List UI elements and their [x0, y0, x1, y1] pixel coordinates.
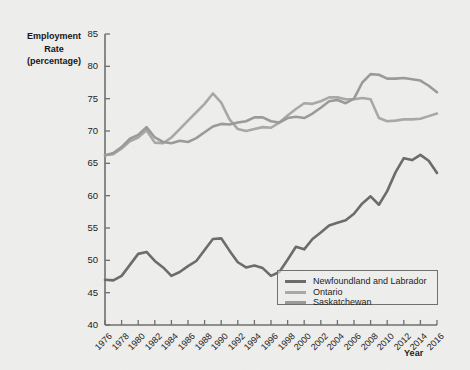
chart-legend: Newfoundland and Labrador Ontario Saskat… [277, 270, 438, 305]
legend-item-saskatchewan: Saskatchewan [285, 297, 372, 307]
y-tick-70: 70 [82, 125, 98, 136]
legend-item-ontario: Ontario [285, 287, 343, 297]
y-tick-65: 65 [82, 157, 98, 168]
legend-label-ontario: Ontario [313, 287, 343, 297]
series-line-newfoundland-and-labrador [105, 155, 437, 280]
y-tick-55: 55 [82, 222, 98, 233]
line-plot [0, 0, 470, 370]
y-tick-50: 50 [82, 254, 98, 265]
x-axis-ticks [105, 320, 437, 325]
legend-label-saskatchewan: Saskatchewan [313, 297, 372, 307]
legend-swatch-newfoundland-and-labrador [285, 280, 306, 283]
y-tick-75: 75 [82, 93, 98, 104]
data-series-group [105, 74, 437, 280]
y-tick-45: 45 [82, 287, 98, 298]
legend-swatch-saskatchewan [285, 301, 306, 304]
y-tick-80: 80 [82, 60, 98, 71]
chart-container: Employment Rate (percentage) Year 404550… [0, 0, 470, 370]
y-tick-85: 85 [82, 28, 98, 39]
legend-item-newfoundland-and-labrador: Newfoundland and Labrador [285, 276, 427, 286]
y-tick-40: 40 [82, 319, 98, 330]
legend-swatch-ontario [285, 291, 306, 294]
y-tick-60: 60 [82, 190, 98, 201]
legend-label-newfoundland-and-labrador: Newfoundland and Labrador [313, 276, 427, 286]
series-line-ontario [105, 93, 437, 154]
